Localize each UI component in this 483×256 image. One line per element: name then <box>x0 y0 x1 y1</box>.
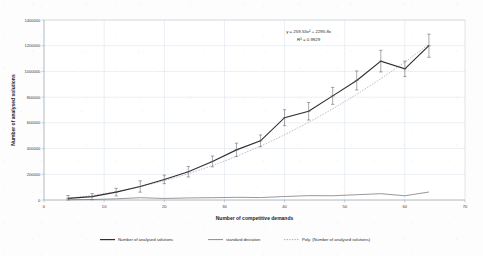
trendline-equation-label: y = 259.53x² + 2295.8x <box>286 29 332 34</box>
x-axis-tick-label: 60 <box>403 204 408 209</box>
legend-label-3[interactable]: Poly. (Number of analysed solutions) <box>302 237 371 242</box>
y-axis-tick-label: 1000000 <box>24 69 41 74</box>
x-axis-tick-label: 0 <box>43 204 46 209</box>
x-axis-tick-label: 70 <box>463 204 468 209</box>
legend-label-1[interactable]: Number of analysed solutions <box>118 237 173 242</box>
x-axis-tick-label: 20 <box>162 204 167 209</box>
x-axis-tick-label: 30 <box>222 204 227 209</box>
y-axis-tick-label: 800000 <box>27 95 41 100</box>
y-axis-tick-label: 1200000 <box>24 43 41 48</box>
y-axis-tick-label: 1400000 <box>24 18 41 23</box>
x-axis-tick-label: 40 <box>282 204 287 209</box>
y-axis-tick-label: 600000 <box>27 120 41 125</box>
x-axis-tick-label: 10 <box>102 204 107 209</box>
y-axis-tick-label: 0 <box>38 198 41 203</box>
y-axis-title: Number of analysed solutions <box>10 74 16 146</box>
scatter-line-chart: 0200000400000600000800000100000012000001… <box>0 0 483 256</box>
legend-label-2[interactable]: standard deviation <box>226 237 261 242</box>
y-axis-tick-label: 400000 <box>27 146 41 151</box>
x-axis-tick-label: 50 <box>342 204 347 209</box>
r-squared-label: R² = 0.9929 <box>297 37 321 42</box>
plot-area-background <box>44 20 465 200</box>
chart-container: 0200000400000600000800000100000012000001… <box>0 0 483 256</box>
y-axis-tick-label: 200000 <box>27 172 41 177</box>
x-axis-title: Number of competitive demands <box>216 215 294 221</box>
